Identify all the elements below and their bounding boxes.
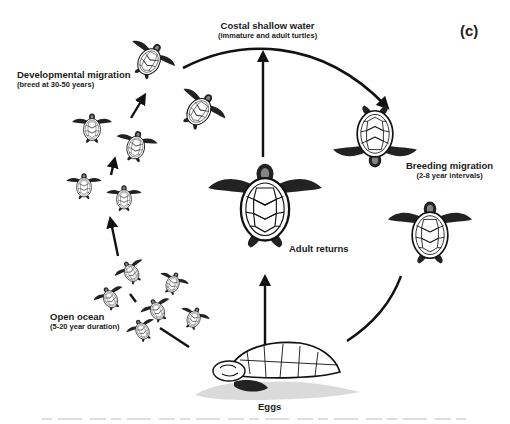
turtle-icon	[113, 128, 159, 165]
label-open-ocean: Open ocean (5-20 year duration)	[50, 312, 120, 332]
turtle-icon	[176, 302, 212, 333]
arrow-developmental-2	[131, 98, 143, 118]
arrow-breeding-to-eggs	[347, 276, 401, 341]
panel-label: (c)	[460, 22, 478, 39]
label-adult-returns: Adult returns	[289, 244, 349, 255]
life-cycle-diagram	[0, 0, 510, 424]
turtle-icon	[333, 106, 417, 168]
label-breeding: Breeding migration (2-8 year intervals)	[406, 161, 493, 181]
label-coastal: Costal shallow water (immature and adult…	[218, 21, 317, 41]
label-open-ocean-subtitle: (5-20 year duration)	[50, 323, 120, 332]
turtle-icon	[388, 202, 472, 264]
arrow-coastal-to-breeding	[183, 49, 385, 105]
arrow-eggs-to-ocean	[160, 328, 189, 347]
label-breeding-subtitle: (2-8 year intervals)	[406, 172, 493, 181]
nesting-turtle-icon	[195, 342, 360, 400]
label-developmental-subtitle: (breed at 30-50 years)	[17, 81, 131, 90]
label-developmental: Developmental migration (breed at 30-50 …	[17, 70, 131, 90]
turtle-icon	[106, 185, 141, 211]
arrow-ocean-to-developmental	[111, 222, 118, 256]
turtle-icon	[155, 267, 191, 298]
adult-turtle-icon	[208, 164, 322, 248]
arrow-ocean-inner	[130, 294, 136, 302]
turtle-icon	[72, 114, 112, 144]
label-adult-returns-title: Adult returns	[289, 244, 349, 255]
turtle-icon	[168, 80, 232, 140]
label-eggs-title: Eggs	[258, 402, 281, 413]
arrow-developmental-1	[111, 162, 114, 175]
turtle-icon	[111, 254, 151, 290]
label-coastal-subtitle: (immature and adult turtles)	[218, 32, 317, 41]
label-eggs: Eggs	[258, 402, 281, 413]
turtle-icon	[138, 293, 177, 328]
turtle-icon	[66, 173, 101, 199]
